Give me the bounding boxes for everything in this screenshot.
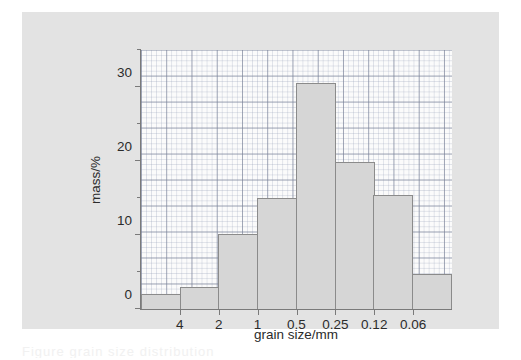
x-tick — [258, 309, 259, 315]
x-tick — [180, 309, 181, 315]
y-tick-label: 0 — [124, 287, 132, 302]
histogram-bar — [218, 234, 258, 309]
y-tick-major — [135, 86, 141, 87]
x-axis-title: grain size/mm — [140, 327, 452, 342]
figure-root: 0102030 4210.50.250.120.06 grain size/mm… — [0, 0, 521, 360]
y-tick-minor — [137, 197, 141, 198]
figure-panel: 0102030 4210.50.250.120.06 grain size/mm… — [22, 12, 499, 329]
y-tick-minor — [137, 271, 141, 272]
y-tick-major — [135, 308, 141, 309]
histogram-bar — [180, 287, 220, 309]
x-tick — [219, 309, 220, 315]
y-tick-label: 30 — [117, 65, 132, 80]
histogram-bar — [373, 195, 413, 309]
histogram-bar — [335, 162, 375, 309]
y-tick-label: 20 — [117, 139, 132, 154]
y-tick-major — [135, 234, 141, 235]
histogram-bar — [296, 83, 336, 309]
y-tick-minor — [137, 49, 141, 50]
x-tick — [374, 309, 375, 315]
x-tick — [335, 309, 336, 315]
y-axis-title: mass/% — [88, 156, 103, 204]
y-tick-minor — [137, 123, 141, 124]
y-tick-major — [135, 160, 141, 161]
plot-area: 0102030 4210.50.250.120.06 — [140, 50, 452, 310]
histogram-bar — [412, 274, 452, 309]
histogram-bars — [141, 50, 452, 309]
histogram-bar — [257, 198, 297, 309]
x-tick — [297, 309, 298, 315]
y-tick-label: 10 — [117, 213, 132, 228]
caption-fragment: Figure grain size distribution — [22, 344, 499, 358]
x-tick — [413, 309, 414, 315]
histogram-bar — [141, 294, 181, 309]
